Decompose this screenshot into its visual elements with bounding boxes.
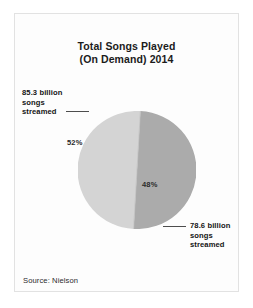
callout-leader-line-left	[66, 111, 89, 112]
callout-right-line-1: 78.6 billion	[190, 221, 230, 231]
chart-figure: Total Songs Played (On Demand) 2014 52% …	[0, 0, 253, 308]
callout-label-85-3-billion: 85.3 billion songs streamed	[22, 88, 62, 117]
chart-title-line-1: Total Songs Played	[14, 40, 239, 53]
callout-left-line-2: songs	[22, 98, 62, 108]
pie-slice-78-6-billion[interactable]	[78, 111, 140, 229]
pie-value-label-52: 52%	[67, 138, 83, 147]
pie-chart-svg	[78, 111, 196, 229]
callout-left-line-1: 85.3 billion	[22, 88, 62, 98]
callout-left-line-3: streamed	[22, 107, 62, 117]
callout-right-line-3: streamed	[190, 240, 230, 250]
pie-slice-85-3-billion[interactable]	[134, 111, 196, 229]
callout-right-line-2: songs	[190, 231, 230, 241]
source-note: Source: Nielson	[23, 276, 78, 285]
pie-chart	[78, 111, 196, 229]
pie-value-label-48: 48%	[142, 180, 158, 189]
chart-title-line-2: (On Demand) 2014	[14, 53, 239, 66]
callout-leader-line-right	[163, 226, 186, 227]
chart-title: Total Songs Played (On Demand) 2014	[14, 40, 239, 66]
callout-label-78-6-billion: 78.6 billion songs streamed	[190, 221, 230, 250]
